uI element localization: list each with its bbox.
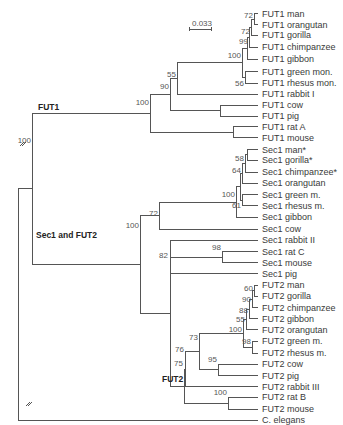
bootstrap-value: 73 (189, 333, 198, 342)
bootstrap-value: 100 (136, 98, 150, 107)
leaf-label: FUT2 man (262, 280, 305, 290)
phylogenetic-tree: 0.033 FUT1 manFUT1 orangutanFUT1 gorilla… (0, 0, 343, 425)
bootstrap-value: 98 (212, 243, 221, 252)
leaf-label: FUT1 cow (262, 100, 304, 110)
bootstrap-value: 82 (159, 251, 168, 260)
bootstrap-value: 60 (244, 284, 253, 293)
leaf-label: Sec1 rhesus m. (262, 201, 325, 211)
bootstrap-value: 100 (228, 51, 242, 60)
bootstrap-values: 7272995610055901005864611007298609088559… (18, 11, 254, 398)
leaf-label: Sec1 gorilla* (262, 155, 313, 165)
bootstrap-value: 88 (239, 306, 248, 315)
leaf-label: FUT1 rat A (262, 122, 306, 132)
leaf-label: FUT1 man (262, 9, 305, 19)
leaf-label: FUT2 gibbon (262, 314, 314, 324)
leaf-label: FUT1 green mon. (262, 67, 333, 77)
leaf-label: Sec1 cow (262, 224, 302, 234)
leaf-label: FUT1 chimpanzee (262, 42, 336, 52)
bootstrap-value: 61 (232, 201, 241, 210)
leaf-label: FUT1 rabbit I (262, 89, 315, 99)
bootstrap-value: 100 (126, 221, 140, 230)
scale-bar: 0.033 (189, 19, 213, 31)
bootstrap-value: 56 (235, 79, 244, 88)
leaf-label: Sec1 green m. (262, 190, 321, 200)
leaf-label: FUT1 gorilla (262, 30, 311, 40)
leaf-label: FUT2 chimpanzee (262, 303, 336, 313)
leaf-label: Sec1 orangutan (262, 178, 326, 188)
bootstrap-value: 75 (174, 359, 183, 368)
scale-bar-label: 0.033 (192, 19, 213, 28)
leaf-label: FUT2 mouse (262, 404, 314, 414)
axis-break-mark (20, 142, 32, 406)
leaf-label: FUT2 rabbit III (262, 382, 320, 392)
leaf-label: FUT1 orangutan (262, 20, 328, 30)
bootstrap-value: 100 (222, 190, 236, 199)
bootstrap-value: 58 (235, 154, 244, 163)
clade-label-sec1-fut2: Sec1 and FUT2 (36, 230, 97, 240)
leaf-label: Sec1 gibbon (262, 212, 312, 222)
bootstrap-value: 90 (242, 295, 251, 304)
leaf-label: Sec1 pig (262, 269, 297, 279)
bootstrap-value: 99 (239, 37, 248, 46)
bootstrap-value: 72 (149, 209, 158, 218)
bootstrap-value: 95 (208, 355, 217, 364)
leaf-labels: FUT1 manFUT1 orangutanFUT1 gorillaFUT1 c… (262, 9, 338, 425)
bootstrap-value: 64 (232, 166, 241, 175)
bootstrap-value: 76 (175, 345, 184, 354)
bootstrap-value: 90 (160, 82, 169, 91)
bootstrap-value: 100 (214, 388, 228, 397)
leaf-label: C. elegans (262, 415, 306, 425)
bootstrap-value: 55 (167, 70, 176, 79)
leaf-label: FUT2 cow (262, 359, 304, 369)
leaf-label: FUT2 orangutan (262, 325, 328, 335)
leaf-label: Sec1 chimpanzee* (262, 167, 338, 177)
bootstrap-value: 55 (236, 315, 245, 324)
leaf-label: FUT2 pig (262, 371, 299, 381)
bootstrap-value: 72 (241, 27, 250, 36)
bootstrap-value: 98 (242, 337, 251, 346)
leaf-label: FUT2 rhesus m. (262, 348, 327, 358)
bootstrap-value: 100 (229, 325, 243, 334)
bootstrap-value: 72 (244, 11, 253, 20)
clade-label-fut1: FUT1 (38, 102, 60, 112)
leaf-label: Sec1 mouse (262, 258, 312, 268)
leaf-label: FUT2 gorilla (262, 291, 311, 301)
leaf-label: FUT2 green m. (262, 336, 323, 346)
leaf-label: FUT1 pig (262, 111, 299, 121)
clade-label-fut2: FUT2 (162, 374, 184, 384)
leaf-label: FUT1 mouse (262, 133, 314, 143)
leaf-label: FUT2 rat B (262, 392, 306, 402)
leaf-label: Sec1 rabbit II (262, 235, 315, 245)
leaf-label: Sec1 man* (262, 145, 307, 155)
leaf-label: FUT1 rhesus mon. (262, 78, 337, 88)
leaf-label: FUT1 gibbon (262, 54, 314, 64)
leaf-label: Sec1 rat C (262, 247, 305, 257)
tree-branches (18, 14, 258, 420)
